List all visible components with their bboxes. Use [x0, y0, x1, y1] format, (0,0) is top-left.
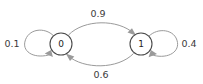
transition-edge-1-to-0: [66, 54, 134, 66]
state-diagram-canvas: 0 1 0.1 0.9 0.6 0.4: [0, 0, 203, 84]
node-state-1-label: 1: [138, 39, 144, 49]
node-state-1[interactable]: 1: [130, 33, 152, 55]
edge-label-0-to-1: 0.9: [90, 8, 105, 19]
state-diagram-svg: 0 1 0.1 0.9 0.6 0.4: [0, 0, 203, 84]
edge-1-to-0-path: [68, 54, 134, 66]
self-loop-edge-state-1: [149, 31, 178, 58]
transition-edge-0-to-1: [69, 23, 137, 36]
edge-label-self-loop-0: 0.1: [4, 38, 19, 49]
edge-label-1-to-0: 0.6: [93, 69, 108, 80]
edge-0-to-1-path: [69, 23, 134, 35]
edge-label-self-loop-1: 0.4: [181, 38, 196, 49]
node-state-0-label: 0: [58, 39, 64, 49]
self-loop-edge-state-0: [25, 30, 54, 57]
node-state-0[interactable]: 0: [50, 33, 72, 55]
